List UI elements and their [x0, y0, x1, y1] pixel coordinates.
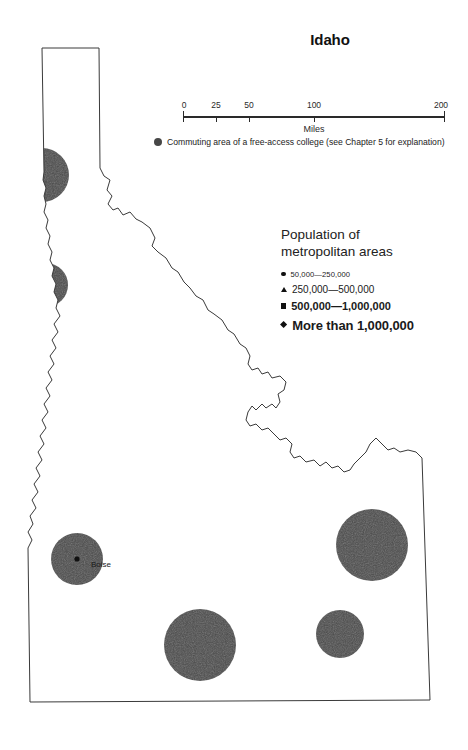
city-marker-boise — [74, 556, 79, 561]
commuting-circle-pocatello — [316, 610, 364, 658]
commuting-circle-twin-falls — [164, 609, 236, 681]
idaho-state-map — [0, 0, 468, 750]
idaho-state-outline — [28, 48, 430, 702]
commuting-circle-coeur-dalene — [15, 148, 69, 202]
commuting-area-circles — [15, 148, 408, 681]
idaho-map-figure: Idaho 0 25 50 100 200 Miles Commuting ar… — [0, 0, 468, 750]
city-label-boise: Boise — [91, 560, 111, 569]
commuting-circle-lewiston — [24, 263, 68, 307]
commuting-circle-idaho-falls — [336, 509, 408, 581]
